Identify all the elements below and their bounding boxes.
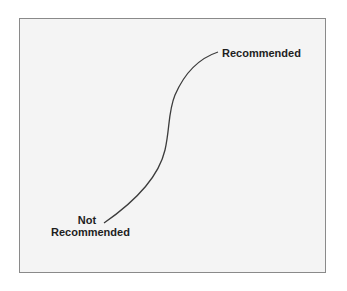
recommendation-curve [104, 52, 218, 223]
not-recommended-label: Not Recommended [51, 214, 123, 238]
recommended-label: Recommended [222, 47, 301, 59]
s-curve [0, 0, 347, 291]
not-recommended-line1: Not [51, 214, 123, 226]
not-recommended-line2: Recommended [51, 226, 123, 238]
